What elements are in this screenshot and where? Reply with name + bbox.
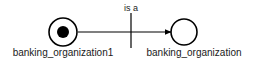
node-label-instance: banking_organization1 xyxy=(13,47,114,58)
node-class-banking-organization[interactable] xyxy=(171,19,197,45)
node-instance-banking-organization1[interactable] xyxy=(49,18,77,46)
class-node-circle xyxy=(171,19,197,45)
graph-diagram: is a banking_organization1 banking_organ… xyxy=(0,0,255,61)
node-label-class: banking_organization xyxy=(146,47,241,58)
edge-label-is-a: is a xyxy=(124,3,138,13)
instance-node-inner-dot xyxy=(57,26,69,38)
diagram-canvas: is a banking_organization1 banking_organ… xyxy=(0,0,255,61)
